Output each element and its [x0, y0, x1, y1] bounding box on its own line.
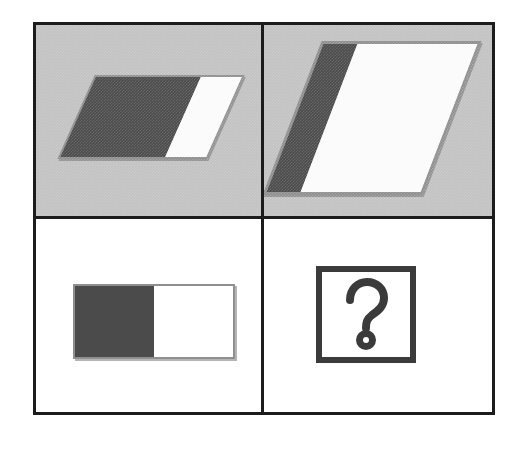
analogy-matrix: A slanted B slanted C upright [33, 22, 495, 415]
matrix-cell-d[interactable]: D unknown ? [264, 219, 492, 413]
figure-c-two-tone-rectangle[interactable] [73, 284, 235, 359]
cell-a-skew: slanted [36, 25, 37, 26]
question-mark-icon [340, 278, 392, 350]
cell-b-id: B [264, 25, 265, 26]
cell-d-id: D [264, 219, 265, 220]
matrix-cell-b[interactable]: B slanted [264, 25, 492, 219]
page-title: Visual analogy matrix [0, 21, 1, 22]
figure-c-light-segment [154, 286, 233, 357]
matrix-cell-a[interactable]: A slanted [36, 25, 264, 219]
cell-a-id: A [36, 25, 37, 26]
matrix-cell-c[interactable]: C upright [36, 219, 264, 413]
cell-c-id: C [36, 219, 37, 220]
figure-c-dark-segment [75, 286, 154, 357]
cell-b-skew: slanted [264, 25, 265, 26]
figure-a-two-tone-rectangle[interactable] [57, 75, 244, 159]
cell-d-state: unknown [264, 219, 265, 220]
figure-b-two-tone-rectangle[interactable] [264, 41, 482, 195]
cell-c-skew: upright [36, 219, 37, 220]
puzzle-canvas: Visual analogy matrix A is to B as C is … [0, 0, 528, 453]
puzzle-prompt: A is to B as C is to ? [0, 16, 1, 17]
answer-box[interactable]: ? [316, 266, 416, 363]
